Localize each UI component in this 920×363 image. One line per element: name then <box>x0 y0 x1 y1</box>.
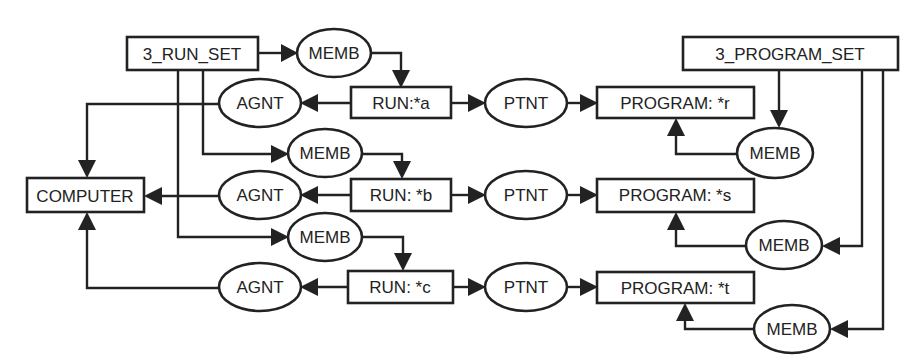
arrow-down-icon <box>394 253 412 271</box>
relation-label: MEMB <box>767 320 818 339</box>
relation-label: PTNT <box>504 186 548 205</box>
arrow-left-icon <box>300 94 318 112</box>
relation-label: AGNT <box>236 94 283 113</box>
concept-program-t[interactable]: PROGRAM: *t <box>597 272 754 303</box>
concept-computer[interactable]: COMPUTER <box>27 178 144 212</box>
arrow-left-icon <box>300 278 318 296</box>
arrow-down-icon <box>770 110 788 128</box>
arrow-right-icon <box>580 186 598 204</box>
concept-label: PROGRAM: *t <box>621 279 730 298</box>
concept-label: RUN: *c <box>369 278 431 297</box>
relation-label: PTNT <box>504 278 548 297</box>
concept-run-b[interactable]: RUN: *b <box>351 179 451 211</box>
concept-program-set[interactable]: 3_PROGRAM_SET <box>683 37 898 70</box>
concept-label: 3_PROGRAM_SET <box>715 45 864 64</box>
arrow-right-icon <box>468 278 486 296</box>
relation-label: MEMB <box>309 44 360 63</box>
relation-label: MEMB <box>759 236 810 255</box>
relation-label: MEMB <box>750 144 801 163</box>
concept-label: RUN: *b <box>370 186 432 205</box>
concept-run-a[interactable]: RUN:*a <box>351 87 451 118</box>
edge-memb-t-program-t <box>685 316 754 329</box>
relation-memb-program-r[interactable]: MEMB <box>737 128 813 178</box>
edge-agnt-c-computer <box>87 225 219 288</box>
arrow-up-icon <box>667 212 685 230</box>
concept-label: 3_RUN_SET <box>143 45 241 64</box>
relation-agnt-c[interactable]: AGNT <box>219 263 301 311</box>
arrow-down-icon <box>392 70 410 88</box>
arrow-left-icon <box>300 186 318 204</box>
relation-label: MEMB <box>300 228 351 247</box>
arrow-right-icon <box>468 94 486 112</box>
relation-ptnt-b[interactable]: PTNT <box>485 171 567 219</box>
concept-label: PROGRAM: *r <box>620 94 730 113</box>
arrow-right-icon <box>580 94 598 112</box>
relation-ptnt-c[interactable]: PTNT <box>485 263 567 311</box>
arrow-up-icon <box>78 212 96 230</box>
concept-label: RUN:*a <box>372 94 430 113</box>
arrow-down-icon <box>393 161 411 179</box>
arrow-up-icon <box>676 303 694 321</box>
conceptual-graph-diagram: 3_RUN_SET 3_PROGRAM_SET COMPUTER RUN:*a … <box>0 0 920 363</box>
arrow-up-icon <box>667 118 685 136</box>
relation-label: AGNT <box>236 278 283 297</box>
relation-memb-program-s[interactable]: MEMB <box>746 221 822 269</box>
arrow-right-icon <box>468 186 486 204</box>
edge-memb-r-program-r <box>676 131 737 154</box>
relation-agnt-a[interactable]: AGNT <box>219 79 301 127</box>
relation-ptnt-a[interactable]: PTNT <box>485 79 567 127</box>
arrow-left-icon <box>830 320 848 338</box>
concept-label: COMPUTER <box>36 187 133 206</box>
relation-memb-run-a[interactable]: MEMB <box>297 29 371 77</box>
arrow-right-icon <box>281 44 298 62</box>
relation-label: PTNT <box>504 94 548 113</box>
concept-program-s[interactable]: PROGRAM: *s <box>597 179 754 212</box>
relation-memb-run-c[interactable]: MEMB <box>288 213 362 261</box>
concept-run-set[interactable]: 3_RUN_SET <box>127 37 258 70</box>
relation-memb-program-t[interactable]: MEMB <box>754 305 830 353</box>
arrow-left-icon <box>822 237 840 255</box>
edge-agnt-a-computer <box>87 104 219 166</box>
edge-programset-memb-s <box>835 70 862 246</box>
edge-memb-s-program-s <box>676 225 747 246</box>
arrow-left-icon <box>144 187 162 205</box>
relation-label: AGNT <box>236 186 283 205</box>
arrow-right-icon <box>271 228 289 246</box>
arrow-down-icon <box>78 160 96 178</box>
relation-label: MEMB <box>300 144 351 163</box>
concept-label: PROGRAM: *s <box>619 186 731 205</box>
relation-memb-run-b[interactable]: MEMB <box>288 129 362 177</box>
arrow-right-icon <box>580 278 598 296</box>
concept-program-r[interactable]: PROGRAM: *r <box>597 87 754 118</box>
arrow-right-icon <box>271 145 289 163</box>
relation-agnt-b[interactable]: AGNT <box>219 171 301 219</box>
concept-run-c[interactable]: RUN: *c <box>348 271 453 303</box>
